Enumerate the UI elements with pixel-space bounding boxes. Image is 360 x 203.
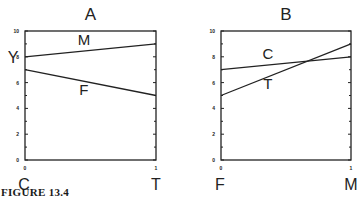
plot-frame bbox=[221, 31, 351, 160]
x-label-right: T bbox=[151, 176, 161, 193]
series-label-c: C bbox=[262, 45, 273, 62]
y-tick-label: 4 bbox=[16, 105, 19, 111]
series-line-t bbox=[221, 44, 351, 96]
y-tick-label: 0 bbox=[16, 157, 19, 163]
y-tick-label: 8 bbox=[212, 54, 215, 60]
y-tick-label: 10 bbox=[13, 28, 19, 34]
x-tick-label: 0 bbox=[24, 165, 27, 171]
series-line-m bbox=[25, 44, 156, 57]
figure-canvas: A024681001CTYMF B024681001FMCT bbox=[0, 0, 360, 203]
chart-title: A bbox=[85, 5, 97, 24]
x-tick-label: 1 bbox=[155, 165, 158, 171]
series-label-m: M bbox=[78, 31, 91, 48]
y-tick-label: 4 bbox=[212, 105, 215, 111]
chart-panel-b: B024681001FMCT bbox=[209, 5, 357, 193]
series-line-c bbox=[221, 57, 351, 70]
series-label-f: F bbox=[79, 81, 88, 98]
series-line-f bbox=[25, 70, 156, 96]
series-label-t: T bbox=[263, 75, 272, 92]
y-tick-label: 6 bbox=[16, 80, 19, 86]
y-tick-label: 10 bbox=[209, 28, 215, 34]
chart-panel-a: A024681001CTYMF bbox=[8, 5, 161, 193]
y-tick-label: 0 bbox=[212, 157, 215, 163]
figure-caption: FIGURE 13.4 bbox=[1, 186, 69, 198]
x-label-left: F bbox=[215, 176, 225, 193]
y-tick-label: 6 bbox=[212, 80, 215, 86]
chart-title: B bbox=[280, 5, 291, 24]
y-tick-label: 2 bbox=[16, 131, 19, 137]
x-tick-label: 1 bbox=[350, 165, 353, 171]
y-tick-label: 2 bbox=[212, 131, 215, 137]
x-tick-label: 0 bbox=[220, 165, 223, 171]
y-axis-label: Y bbox=[8, 49, 19, 66]
x-label-right: M bbox=[344, 176, 357, 193]
